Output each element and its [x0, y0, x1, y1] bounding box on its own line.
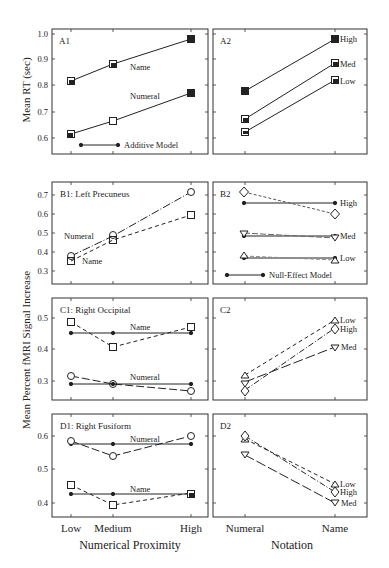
- x-axis-label-proximity: Numerical Proximity: [79, 538, 181, 552]
- svg-text:0.5: 0.5: [37, 313, 48, 323]
- panel-label-b2: B2: [220, 189, 231, 199]
- series-label-med: Med: [341, 498, 357, 508]
- panel-label-b1: B1: Left Precuneus: [60, 189, 130, 199]
- y-ticks: [52, 34, 367, 503]
- svg-text:1.0: 1.0: [37, 29, 48, 39]
- series-label-name: Name: [82, 256, 103, 266]
- y-axis-label-rt: Mean RT (sec): [20, 57, 33, 122]
- series-label-high: High: [340, 198, 358, 208]
- svg-text:0.7: 0.7: [37, 190, 48, 200]
- y-axis-label-fmri: Mean Percent fMRI Signal Increase: [20, 271, 32, 429]
- panel-b2-plot: [225, 187, 339, 277]
- svg-text:0.5: 0.5: [37, 228, 48, 238]
- panel-a2-plot: [242, 36, 339, 136]
- series-label-name: Name: [130, 484, 151, 494]
- svg-text:0.3: 0.3: [37, 266, 48, 276]
- x-tick-medium: Medium: [94, 522, 132, 534]
- y-tick-labels: 1.0 0.9 0.8 0.7 0.6 0.7 0.6 0.5 0.4 0.3 …: [37, 29, 48, 508]
- x-tick-name: Name: [322, 522, 348, 534]
- series-label-numeral: Numeral: [130, 434, 160, 444]
- svg-text:0.8: 0.8: [37, 80, 48, 90]
- panel-label-a1: A1: [59, 36, 70, 46]
- square-marker-icon: [68, 36, 195, 138]
- series-label-numeral: Numeral: [64, 231, 94, 241]
- svg-text:0.6: 0.6: [37, 209, 48, 219]
- svg-text:0.5: 0.5: [37, 464, 48, 474]
- series-label-high: High: [340, 487, 358, 497]
- series-label-med: Med: [340, 231, 356, 241]
- panel-c2-plot: [241, 317, 339, 396]
- panel-label-a2: A2: [220, 36, 231, 46]
- svg-text:0.4: 0.4: [37, 344, 48, 354]
- series-label-med: Med: [340, 59, 356, 69]
- series-label-numeral: Numeral: [130, 91, 160, 101]
- x-tick-low: Low: [61, 522, 81, 534]
- svg-text:0.6: 0.6: [37, 133, 48, 143]
- svg-text:0.9: 0.9: [37, 54, 48, 64]
- series-label-low: Low: [340, 76, 356, 86]
- svg-text:0.7: 0.7: [37, 107, 48, 117]
- series-label-low: Low: [340, 253, 356, 263]
- series-label-name: Name: [130, 62, 151, 72]
- panel-label-d1: D1: Right Fusiform: [60, 421, 131, 431]
- svg-text:0.3: 0.3: [37, 376, 48, 386]
- x-tick-high: High: [180, 522, 203, 534]
- panel-label-c2: C2: [220, 305, 231, 315]
- panel-label-d2: D2: [220, 421, 231, 431]
- svg-text:0.6: 0.6: [37, 431, 48, 441]
- series-label-high: High: [340, 324, 358, 334]
- panel-label-c1: C1: Right Occipital: [60, 305, 131, 315]
- series-label-numeral: Numeral: [130, 372, 160, 382]
- svg-text:0.4: 0.4: [37, 498, 48, 508]
- series-label-high: High: [340, 34, 358, 44]
- figure: 1.0 0.9 0.8 0.7 0.6 0.7 0.6 0.5 0.4 0.3 …: [0, 0, 389, 568]
- svg-text:0.4: 0.4: [37, 247, 48, 257]
- x-axis-label-notation: Notation: [271, 538, 313, 552]
- series-label-name: Name: [130, 322, 151, 332]
- legend-null-effect-model: Null-Effect Model: [269, 270, 333, 280]
- panel-d2-plot: [241, 431, 339, 506]
- x-tick-numeral: Numeral: [226, 522, 264, 534]
- legend-additive-model: Additive Model: [124, 140, 179, 150]
- series-label-med: Med: [341, 342, 357, 352]
- panel-b1-plot: [68, 189, 195, 265]
